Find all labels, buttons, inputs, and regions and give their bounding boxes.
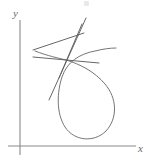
figure-canvas (0, 0, 156, 164)
x-axis-label: x (138, 143, 143, 154)
looped-curve (35, 48, 116, 139)
tangent-line-medium (59, 24, 82, 78)
math-figure-panel: y x (0, 0, 156, 164)
curve-group (35, 48, 116, 139)
lines-group (33, 18, 99, 100)
y-axis-label: y (13, 8, 18, 19)
secant-line-upper (33, 33, 84, 50)
